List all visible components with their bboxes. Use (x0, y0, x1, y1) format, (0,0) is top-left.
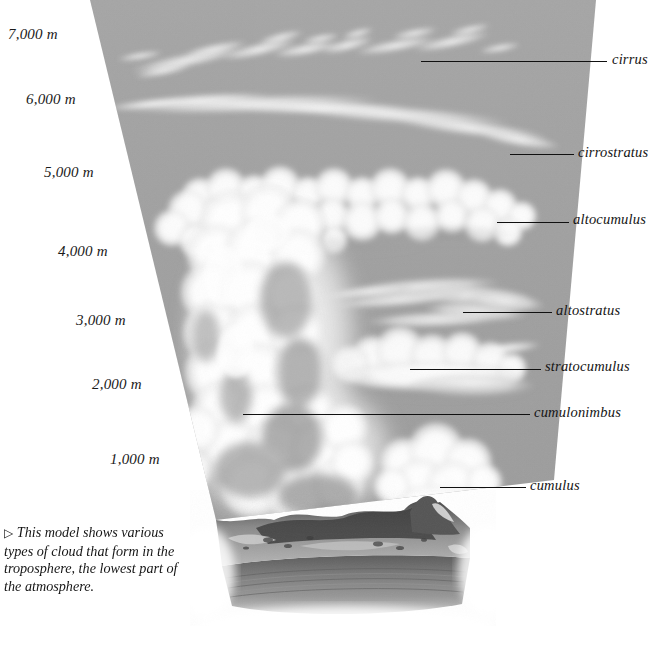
cloud-label-cumulus: cumulus (530, 477, 580, 494)
altitude-label-2000: 2,000 m (92, 376, 142, 393)
cloud-diagram-figure: 7,000 m 6,000 m 5,000 m 4,000 m 3,000 m … (0, 0, 650, 658)
leader-line-cumulus (440, 487, 526, 488)
caption-triangle-icon: ▷ (4, 526, 13, 540)
altitude-label-7000: 7,000 m (8, 26, 58, 43)
leader-line-altostratus (463, 312, 552, 313)
altitude-label-1000: 1,000 m (110, 451, 160, 468)
cloud-label-altostratus: altostratus (556, 302, 620, 319)
altitude-label-6000: 6,000 m (26, 91, 76, 108)
cloud-label-cirrus: cirrus (612, 51, 648, 68)
leader-line-cirrostratus (510, 154, 574, 155)
leader-line-altocumulus (497, 222, 569, 223)
altitude-label-4000: 4,000 m (58, 243, 108, 260)
cloud-label-altocumulus: altocumulus (573, 211, 646, 228)
altitude-label-5000: 5,000 m (44, 164, 94, 181)
cloud-label-stratocumulus: stratocumulus (545, 358, 630, 375)
leader-line-stratocumulus (410, 369, 541, 370)
leader-line-cumulonimbus (243, 414, 530, 415)
figure-caption: ▷ This model shows various types of clou… (4, 524, 194, 595)
leader-line-cirrus (421, 61, 607, 62)
cloud-label-cumulonimbus: cumulonimbus (534, 404, 621, 421)
altitude-label-3000: 3,000 m (76, 312, 126, 329)
cloud-label-cirrostratus: cirrostratus (578, 144, 648, 161)
caption-text: This model shows various types of cloud … (4, 524, 178, 594)
